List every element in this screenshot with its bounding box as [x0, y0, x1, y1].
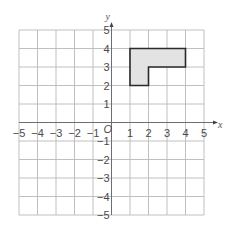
x-tick-label: −3: [50, 127, 63, 139]
y-tick-label: 2: [103, 80, 109, 92]
y-tick-label: −4: [97, 191, 110, 203]
x-tick-label: 1: [127, 127, 133, 139]
y-tick-label: −2: [97, 154, 110, 166]
y-tick-label: −3: [97, 172, 110, 184]
x-tick-label: 3: [164, 127, 170, 139]
y-axis-label: y: [105, 11, 111, 22]
y-axis-arrow-icon: [110, 22, 114, 27]
l-shaped-polygon: [130, 49, 186, 86]
y-tick-label: 4: [103, 43, 109, 55]
y-tick-label: 3: [103, 61, 109, 73]
y-tick-label: −1: [97, 135, 110, 147]
x-axis-label: x: [217, 119, 223, 130]
x-tick-label: 2: [145, 127, 151, 139]
x-tick-label: −2: [68, 127, 81, 139]
x-tick-label: 5: [201, 127, 207, 139]
origin-label: O: [104, 123, 113, 135]
x-tick-label: 4: [182, 127, 188, 139]
axes: [19, 22, 218, 215]
x-tick-label: −4: [31, 127, 44, 139]
y-tick-label: 5: [103, 24, 109, 36]
y-tick-label: −5: [97, 209, 110, 221]
x-tick-label: −5: [13, 127, 26, 139]
coordinate-plane: −5−4−3−2−11234554321−1−2−3−4−5 x y O: [0, 0, 234, 232]
y-tick-label: 1: [103, 98, 109, 110]
